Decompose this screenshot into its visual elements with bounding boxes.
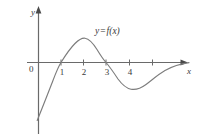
y-axis-arrowhead bbox=[36, 6, 42, 14]
x-axis-label: x bbox=[187, 67, 191, 76]
curve-equation-label: y=f(x) bbox=[95, 27, 120, 37]
origin-label: 0 bbox=[29, 65, 34, 74]
x-tick-label-2: 2 bbox=[80, 68, 88, 77]
y-axis-label: y bbox=[31, 8, 35, 17]
function-curve bbox=[37, 38, 189, 120]
function-graph-figure: y x 0 1 2 3 4 y=f(x) bbox=[0, 0, 199, 134]
x-tick-label-3: 3 bbox=[103, 68, 111, 77]
equation-rhs: f(x) bbox=[107, 26, 120, 36]
x-tick-label-1: 1 bbox=[58, 68, 66, 77]
equation-operator: = bbox=[99, 26, 106, 36]
x-tick-label-4: 4 bbox=[126, 68, 134, 77]
